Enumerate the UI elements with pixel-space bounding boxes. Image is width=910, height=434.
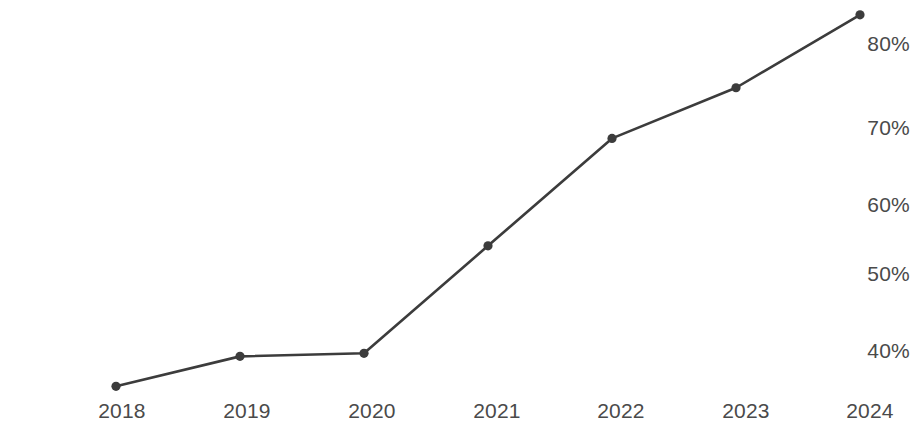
data-point-2020 [359,349,368,358]
plot-area [0,0,910,434]
data-point-2019 [235,352,244,361]
series-markers [111,10,864,391]
data-point-2021 [483,241,492,250]
data-point-2022 [607,134,616,143]
data-point-2023 [731,83,740,92]
data-point-2024 [855,10,864,19]
line-chart: 80% 70% 60% 50% 40% 2018 2019 2020 2021 … [0,0,910,434]
data-point-2018 [111,382,120,391]
series-line [116,15,860,386]
